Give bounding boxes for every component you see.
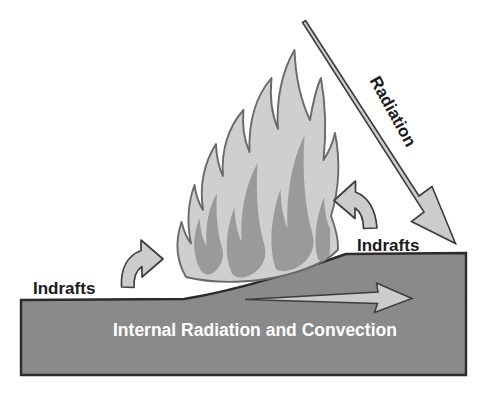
indraft-arrow-right bbox=[334, 181, 377, 229]
indraft-arrow-left-group bbox=[121, 240, 163, 288]
fire-behavior-diagram: Radiation Indrafts Indrafts Internal Rad… bbox=[0, 0, 487, 397]
indrafts-right-label: Indrafts bbox=[357, 236, 419, 255]
flame-group bbox=[177, 50, 338, 282]
internal-radiation-label: Internal Radiation and Convection bbox=[113, 320, 397, 340]
indraft-arrow-right-group bbox=[334, 181, 377, 229]
indraft-arrow-left bbox=[121, 240, 163, 288]
radiation-label: Radiation bbox=[366, 73, 420, 150]
diagram-canvas: Radiation Indrafts Indrafts Internal Rad… bbox=[0, 0, 487, 397]
indrafts-left-label: Indrafts bbox=[33, 279, 95, 298]
